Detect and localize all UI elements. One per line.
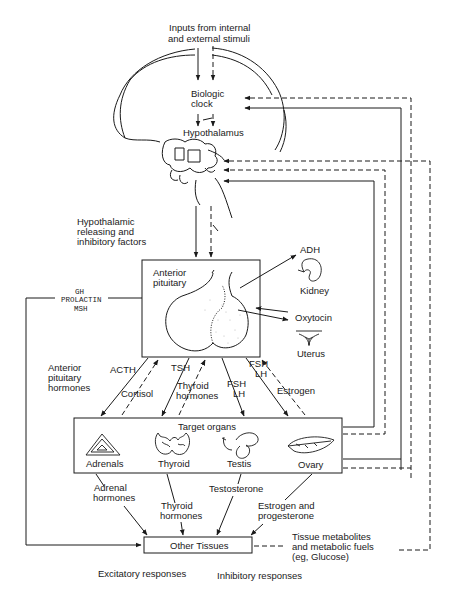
uterus-icon: [296, 331, 322, 346]
ovary-label: Ovary: [298, 459, 324, 470]
anterior-pituitary-label: Anterior pituitary: [153, 267, 187, 288]
testis-label: Testis: [227, 458, 252, 469]
svg-text:LH: LH: [233, 388, 245, 399]
adh-label: ADH: [300, 244, 320, 255]
tsh-label: TSH: [171, 362, 190, 373]
svg-text:MSH: MSH: [74, 305, 88, 313]
svg-text:hormones: hormones: [176, 390, 218, 401]
svg-text:clock: clock: [191, 98, 213, 109]
uterus-label: Uterus: [297, 348, 325, 359]
anterior-pituitary-hormones-label: Anterior pituitary hormones: [48, 362, 90, 393]
hypothalamic-factors-label: Hypothalamic releasing and inhibitory fa…: [77, 216, 146, 247]
testosterone-label: Testosterone: [209, 483, 263, 494]
fsh-lh-testis-label: FSH LH: [227, 378, 246, 399]
svg-text:pituitary: pituitary: [153, 277, 187, 288]
thyroid-hormones-output-label: Thyroid hormones: [160, 500, 202, 521]
estrogen-label: Estrogen: [277, 385, 315, 396]
svg-text:progesterone: progesterone: [258, 510, 314, 521]
svg-text:inhibitory factors: inhibitory factors: [77, 236, 146, 247]
oxytocin-label: Oxytocin: [295, 312, 332, 323]
acth-label: ACTH: [110, 364, 136, 375]
thyroid-label: Thyroid: [158, 458, 190, 469]
target-organs-title: Target organs: [178, 421, 236, 432]
other-tissues-label: Other Tissues: [170, 540, 229, 551]
legend-excitatory: Excitatory responses: [98, 568, 186, 579]
cortisol-label: Cortisol: [121, 388, 153, 399]
svg-text:hormones: hormones: [48, 382, 90, 393]
adrenal-hormones-arrow: [124, 506, 147, 535]
tissue-metabolites-label: Tissue metabolites and metabolic fuels (…: [292, 531, 374, 562]
legend-inhibitory: Inhibitory responses: [217, 570, 302, 581]
hypothalamus-label: Hypothalamus: [183, 127, 244, 138]
adrenals-label: Adrenals: [86, 458, 124, 469]
svg-text:GH: GH: [75, 288, 84, 296]
kidney-label: Kidney: [300, 285, 329, 296]
endocrine-feedback-diagram: Inputs from internal and external stimul…: [0, 0, 454, 596]
svg-text:hormones: hormones: [93, 492, 135, 503]
oxytocin-feedback-arrow: [256, 308, 288, 312]
svg-text:(eg, Glucose): (eg, Glucose): [292, 551, 349, 562]
direct-hormones-label: GH PROLACTIN MSH: [61, 288, 102, 313]
testosterone-arrow: [217, 496, 233, 535]
biologic-clock-label: Biologic clock: [191, 88, 225, 109]
inputs-label: Inputs from internal and external stimul…: [168, 22, 250, 44]
svg-text:and external stimuli: and external stimuli: [168, 33, 250, 44]
svg-text:LH: LH: [255, 368, 267, 379]
kidney-icon: [298, 259, 321, 281]
thyroid-hormones-label: Thyroid hormones: [176, 380, 218, 401]
estrogen-progesterone-label: Estrogen and progesterone: [258, 500, 315, 521]
svg-text:PROLACTIN: PROLACTIN: [61, 296, 102, 304]
adrenal-hormones-label: Adrenal hormones: [93, 482, 135, 503]
thyroid-hormones-output-arrow: [181, 522, 183, 535]
estrogen-progesterone-arrow: [251, 524, 263, 535]
fsh-lh-ovary-label: FSH LH: [249, 358, 268, 379]
svg-text:Inputs from internal: Inputs from internal: [169, 22, 250, 33]
svg-text:hormones: hormones: [160, 510, 202, 521]
